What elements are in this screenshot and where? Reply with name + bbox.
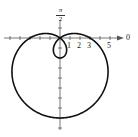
polar-graph (0, 0, 138, 137)
polar-axis-label: 0 (126, 34, 130, 42)
tick-label-5: 5 (107, 42, 111, 50)
tick-label-2: 2 (77, 42, 81, 50)
tick-label-1: 1 (67, 42, 71, 50)
pi-over-2-label: π 2 (56, 7, 65, 23)
tick-label-3: 3 (87, 42, 91, 50)
arrow-icon (117, 36, 124, 41)
